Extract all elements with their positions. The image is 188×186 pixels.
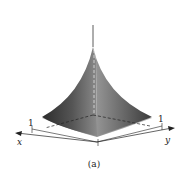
surface-left-face — [42, 47, 97, 136]
figure-caption: (a) — [88, 159, 100, 169]
surface-right-face — [93, 47, 152, 136]
x-axis-label: x — [17, 137, 22, 147]
x-axis — [17, 133, 97, 142]
y-axis-arrow-icon — [168, 126, 175, 131]
y-tick-label: 1 — [158, 114, 164, 124]
surface-diagram: 1 1 x y (a) — [0, 0, 188, 186]
y-axis-label: y — [164, 135, 171, 145]
x-axis-arrow-icon — [15, 131, 22, 136]
x-tick-label: 1 — [28, 118, 34, 128]
